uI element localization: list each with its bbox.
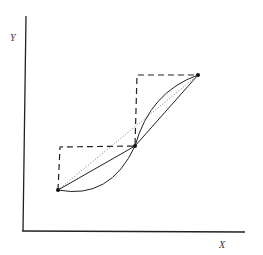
dotted-reference-line: [58, 75, 198, 190]
point-lower: [56, 188, 60, 192]
point-middle: [133, 144, 137, 148]
point-upper: [196, 73, 200, 77]
y-axis-label: Y: [10, 32, 17, 43]
x-axis: [22, 231, 245, 232]
x-axis-label: X: [218, 239, 226, 250]
diagram-canvas: Y X: [0, 0, 263, 255]
y-axis: [23, 16, 26, 231]
